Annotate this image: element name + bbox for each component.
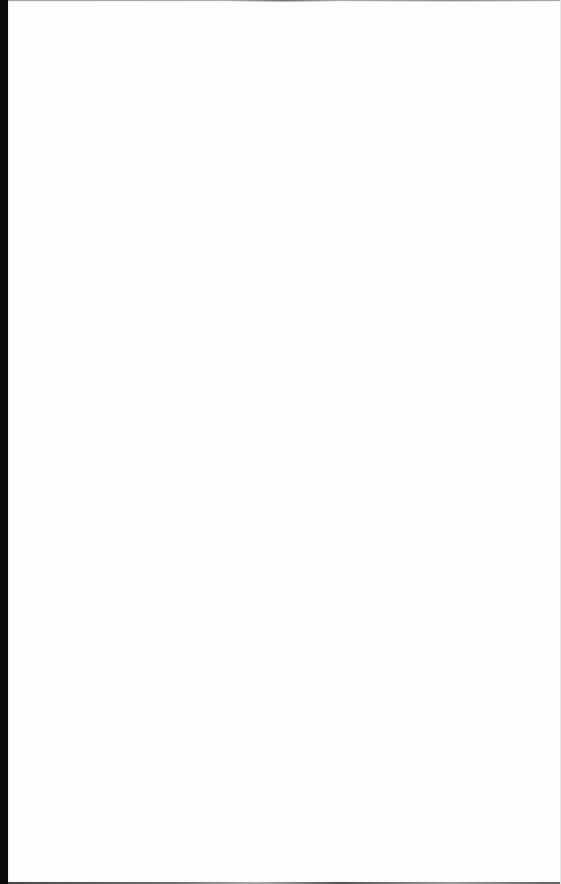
blank-document-page <box>8 1 561 882</box>
scan-frame <box>0 0 561 884</box>
page-top-edge <box>8 0 561 2</box>
